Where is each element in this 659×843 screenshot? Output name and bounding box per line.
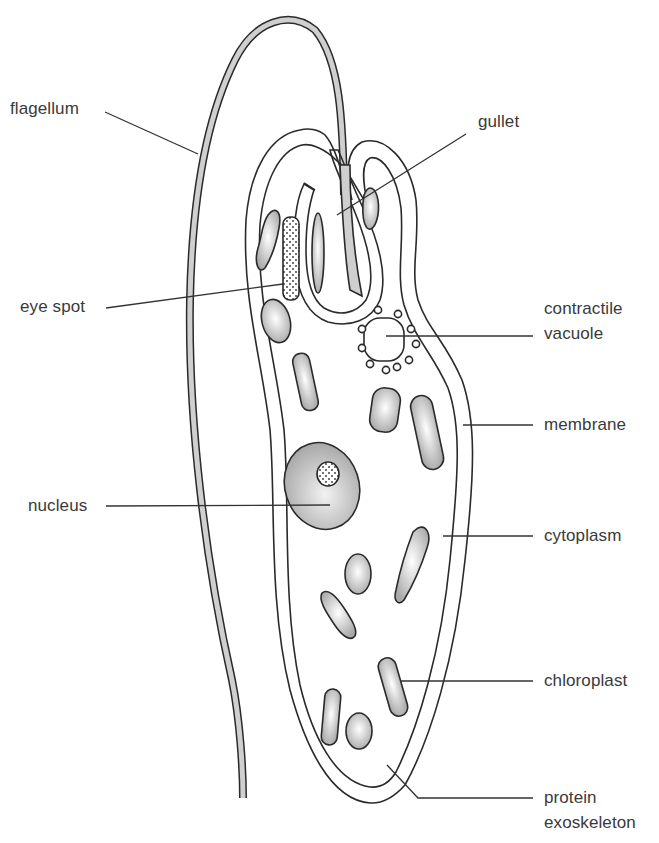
label-eye-spot: eye spot (20, 296, 85, 317)
label-flagellum: flagellum (10, 98, 79, 119)
label-gullet: gullet (478, 111, 519, 132)
label-cytoplasm: cytoplasm (544, 525, 621, 546)
label-membrane: membrane (544, 414, 626, 435)
label-nucleus: nucleus (28, 495, 87, 516)
eye-spot (283, 217, 299, 300)
label-protein-exoskeleton-line2: exoskeleton (544, 812, 636, 833)
gullet (294, 150, 383, 324)
label-chloroplast: chloroplast (544, 670, 627, 691)
label-contractile-vacuole-line1: contractile (544, 298, 623, 319)
label-protein-exoskeleton-line1: protein (544, 787, 597, 808)
nucleus (273, 433, 371, 540)
label-contractile-vacuole-line2: vacuole (544, 323, 603, 344)
